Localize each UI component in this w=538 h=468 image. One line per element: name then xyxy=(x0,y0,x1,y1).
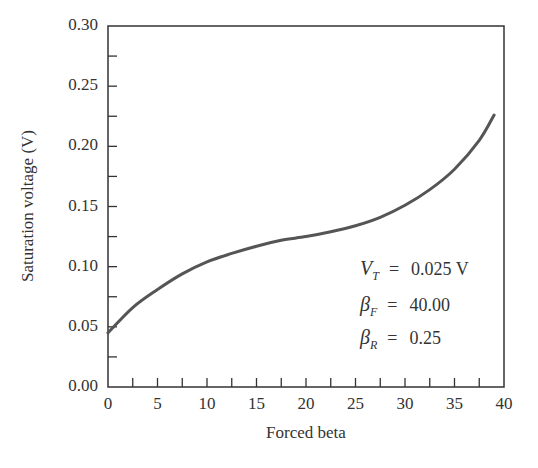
y-tick-label: 0.00 xyxy=(50,376,98,396)
parameter-annotation: βR=0.25 xyxy=(360,326,441,353)
x-tick-label: 25 xyxy=(336,394,376,414)
x-tick-label: 5 xyxy=(138,394,178,414)
x-tick-label: 0 xyxy=(88,394,128,414)
x-tick-label: 10 xyxy=(187,394,227,414)
x-tick-label: 15 xyxy=(237,394,277,414)
y-tick-label: 0.15 xyxy=(50,196,98,216)
y-tick-label: 0.30 xyxy=(50,15,98,35)
y-tick-label: 0.05 xyxy=(50,316,98,336)
y-tick-label: 0.10 xyxy=(50,256,98,276)
parameter-annotation: VT=0.025 V xyxy=(360,257,469,284)
y-tick-label: 0.20 xyxy=(50,135,98,155)
x-tick-label: 40 xyxy=(484,394,524,414)
x-tick-label: 35 xyxy=(435,394,475,414)
x-tick-label: 30 xyxy=(385,394,425,414)
y-tick-label: 0.25 xyxy=(50,75,98,95)
axes-frame xyxy=(108,26,504,387)
y-axis-label: Saturation voltage (V) xyxy=(18,106,38,306)
x-tick-label: 20 xyxy=(286,394,326,414)
chart: 05101520253035400.000.050.100.150.200.25… xyxy=(0,0,538,468)
parameter-annotation: βF=40.00 xyxy=(360,293,450,320)
x-axis-label: Forced beta xyxy=(246,423,366,443)
